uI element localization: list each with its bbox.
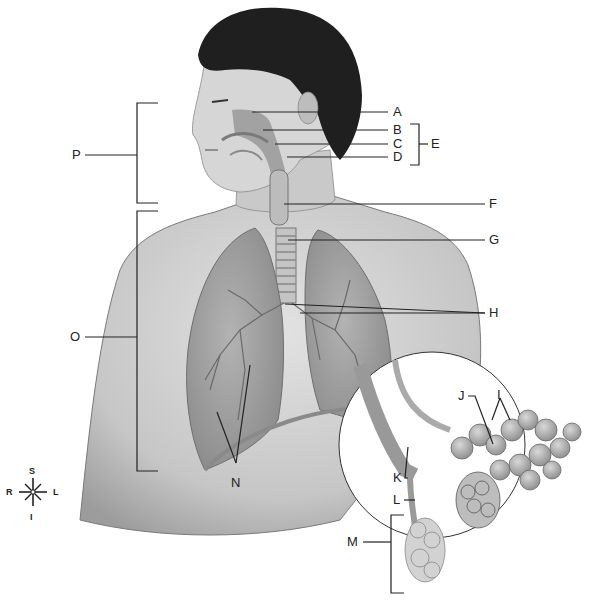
label-e: E [431,137,440,151]
compass-inferior: I [30,512,33,522]
label-l: L [393,493,400,507]
label-b: B [393,123,402,137]
label-j: J [458,389,465,403]
label-p: P [72,148,81,162]
label-a: A [393,105,402,119]
label-f: F [489,197,497,211]
alveoli-inset [339,352,581,582]
respiratory-diagram: P O A B C D E F G H I J K L M N S I R L [0,0,593,600]
label-d: D [393,150,402,164]
compass-rose-icon [19,478,47,506]
label-i: I [497,388,501,402]
head [192,8,362,198]
label-g: G [489,233,499,247]
compass-superior: S [29,466,35,476]
label-m: M [347,535,358,549]
compass-right: R [6,487,13,497]
diagram-illustration [0,0,593,600]
label-h: H [489,306,498,320]
label-o: O [70,330,80,344]
label-k: K [393,471,402,485]
compass-left: L [53,487,59,497]
label-n: N [231,476,240,490]
